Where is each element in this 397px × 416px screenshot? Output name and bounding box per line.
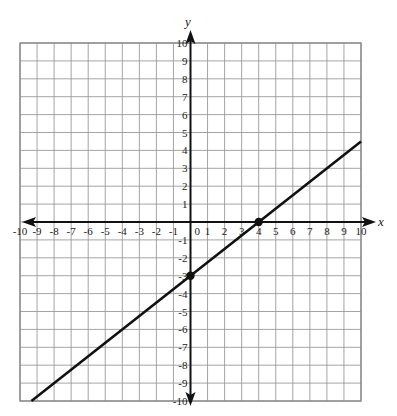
y-tick-label: -10 xyxy=(173,395,188,407)
x-tick-label: 2 xyxy=(222,225,228,237)
x-tick-label: -7 xyxy=(67,225,77,237)
y-tick-label: 5 xyxy=(182,127,188,139)
y-tick-label: -5 xyxy=(178,306,188,318)
y-tick-label: -7 xyxy=(178,341,188,353)
x-tick-label: 4 xyxy=(256,225,262,237)
y-tick-label: 4 xyxy=(182,144,188,156)
x-tick-label: 10 xyxy=(356,225,368,237)
x-tick-label: -10 xyxy=(13,225,28,237)
y-tick-label: 3 xyxy=(182,162,188,174)
data-point xyxy=(255,218,263,226)
y-tick-label: 6 xyxy=(182,109,188,121)
x-tick-label: 8 xyxy=(324,225,330,237)
y-tick-label: -8 xyxy=(178,359,188,371)
x-tick-label: -4 xyxy=(118,225,128,237)
x-tick-label: -2 xyxy=(152,225,161,237)
y-tick-label: -2 xyxy=(178,252,187,264)
data-line xyxy=(31,141,361,401)
y-tick-label: 7 xyxy=(182,91,188,103)
y-tick-label: 1 xyxy=(182,198,188,210)
x-tick-label: -5 xyxy=(101,225,111,237)
x-tick-label: 6 xyxy=(290,225,296,237)
y-tick-label: -4 xyxy=(178,288,188,300)
x-tick-label: -1 xyxy=(169,225,178,237)
x-tick-label: -3 xyxy=(135,225,145,237)
y-tick-label: 8 xyxy=(182,73,188,85)
y-tick-label: 10 xyxy=(177,37,189,49)
y-tick-label: -9 xyxy=(178,377,188,389)
x-tick-label: 9 xyxy=(341,225,347,237)
y-axis-label: y xyxy=(183,14,191,29)
axes xyxy=(22,30,376,406)
x-tick-label: -9 xyxy=(32,225,42,237)
x-tick-label: 5 xyxy=(273,225,279,237)
coordinate-plane: -10-9-8-7-6-5-4-3-2-1012345678910-10-9-8… xyxy=(0,0,397,416)
data-point xyxy=(186,272,194,280)
x-tick-label: -8 xyxy=(50,225,60,237)
data-series xyxy=(31,141,361,401)
x-tick-label: 0 xyxy=(195,225,201,237)
x-tick-label: 1 xyxy=(205,225,211,237)
x-tick-label: -6 xyxy=(84,225,94,237)
y-tick-label: -1 xyxy=(178,234,187,246)
y-tick-label: 2 xyxy=(182,180,188,192)
y-tick-label: -6 xyxy=(178,323,188,335)
x-tick-label: 7 xyxy=(307,225,313,237)
x-axis-label: x xyxy=(377,214,384,229)
y-tick-label: 9 xyxy=(182,55,188,67)
